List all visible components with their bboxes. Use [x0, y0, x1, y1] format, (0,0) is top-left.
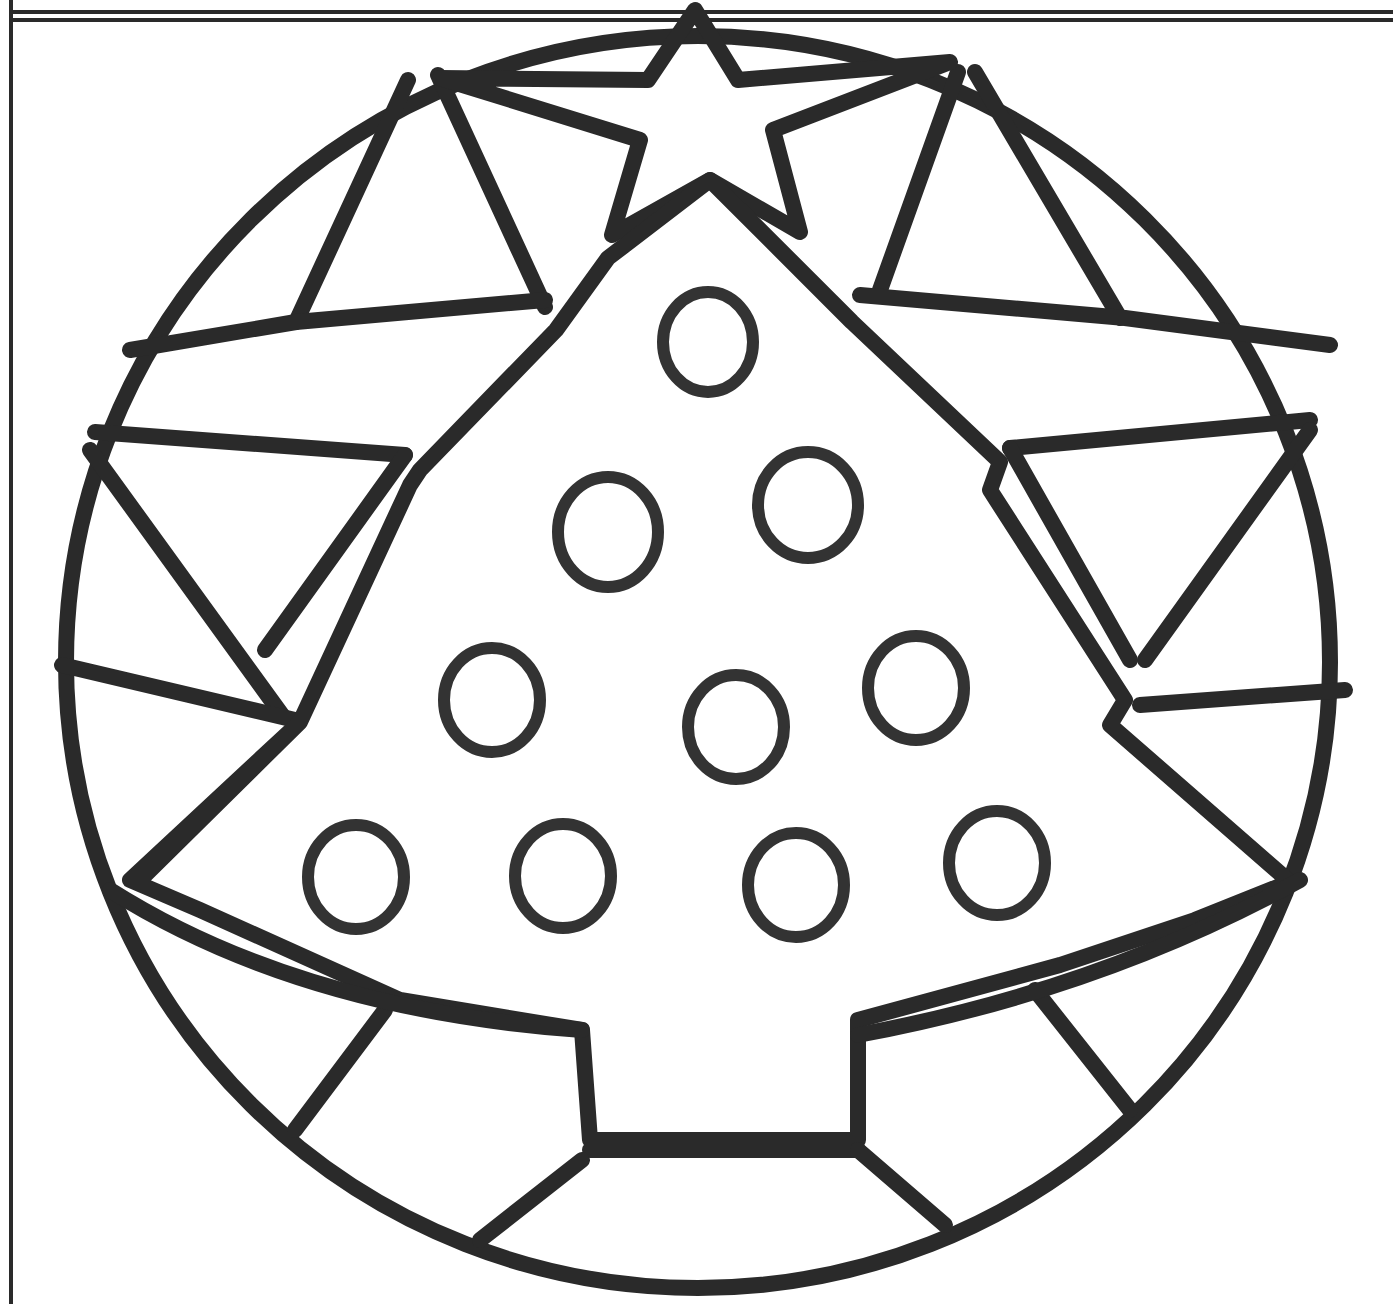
- band-right-middle: [1010, 420, 1310, 448]
- top-triangles: [296, 72, 1120, 322]
- triangle-left-top-edge-a: [296, 80, 408, 322]
- bottom-segments: [110, 880, 1300, 1240]
- triangle-right-top-edge-b: [975, 72, 1120, 318]
- ornament-circle: [758, 452, 858, 558]
- band-left-middle: [95, 432, 405, 455]
- ornament-circle: [558, 477, 658, 587]
- segment-left-a: [295, 1010, 385, 1130]
- artwork-canvas: [0, 0, 1393, 1304]
- ornament-circle: [748, 833, 844, 937]
- radial-bands: [62, 295, 1345, 720]
- ornament-circle: [308, 825, 404, 929]
- triangle-right-top-edge-a: [880, 72, 958, 290]
- segment-right-a: [858, 1150, 945, 1225]
- ornament-circle: [444, 648, 540, 752]
- band-left-upper: [130, 300, 545, 350]
- ornament-circle: [515, 824, 611, 928]
- band-right-upper: [860, 295, 1330, 345]
- segment-left-b: [480, 1160, 582, 1240]
- triangle-right-middle-edge: [1145, 430, 1310, 660]
- ornament-circle: [949, 811, 1045, 915]
- band-right-lower: [1140, 690, 1345, 705]
- ornament-circle: [688, 675, 784, 779]
- ornaments: [308, 292, 1045, 937]
- segment-right-b: [1035, 990, 1130, 1110]
- ornament-circle: [868, 636, 964, 740]
- ornament-circle: [663, 292, 753, 392]
- coloring-page: Christmas tree mandala coloring page: [0, 0, 1393, 1304]
